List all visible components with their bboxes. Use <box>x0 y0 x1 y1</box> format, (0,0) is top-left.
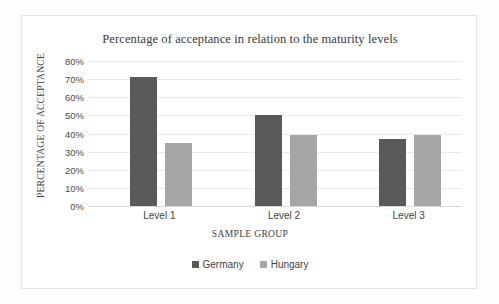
y-axis-tick-label: 10% <box>50 182 84 193</box>
y-axis-tick-label: 80% <box>50 56 84 67</box>
bar-group <box>337 61 462 206</box>
x-axis-title: SAMPLE GROUP <box>22 228 478 239</box>
y-axis-tick-label: 50% <box>50 110 84 121</box>
x-axis-tick-labels: Level 1Level 2Level 3 <box>88 210 462 226</box>
bar-germany-level-2 <box>255 115 282 206</box>
legend-item-hungary[interactable]: Hungary <box>260 259 309 270</box>
bar-group <box>213 61 338 206</box>
bar-group <box>88 61 213 206</box>
x-axis-tick-label: Level 1 <box>114 210 204 221</box>
chart-container: Percentage of acceptance in relation to … <box>21 15 477 289</box>
bar-series-group <box>88 61 462 206</box>
x-axis-tick-label: Level 2 <box>239 210 329 221</box>
plot-area <box>88 61 462 206</box>
y-axis-tick-label: 20% <box>50 164 84 175</box>
y-axis-tick-label: 70% <box>50 74 84 85</box>
legend-swatch-icon <box>192 261 199 268</box>
bar-germany-level-1 <box>130 77 157 206</box>
chart-title: Percentage of acceptance in relation to … <box>22 32 478 47</box>
y-axis-tick-labels: 80%70%60%50%40%30%20%10%0% <box>50 54 84 206</box>
y-axis-tick-label: 40% <box>50 128 84 139</box>
y-axis-tick-label: 30% <box>50 146 84 157</box>
y-axis-tick-label: 0% <box>50 201 84 212</box>
bar-hungary-level-2 <box>290 135 317 206</box>
bar-hungary-level-1 <box>165 143 192 206</box>
legend-item-germany[interactable]: Germany <box>192 259 244 270</box>
y-axis-title: PERCENTAGE OF ACCEPTANCE <box>35 51 46 201</box>
y-axis-tick-label: 60% <box>50 92 84 103</box>
x-axis-tick-label: Level 3 <box>364 210 454 221</box>
chart-legend: GermanyHungary <box>22 259 478 270</box>
axis-baseline <box>88 206 462 207</box>
legend-label: Hungary <box>271 259 309 270</box>
legend-swatch-icon <box>260 261 267 268</box>
bar-hungary-level-3 <box>414 135 441 206</box>
legend-label: Germany <box>203 259 244 270</box>
bar-germany-level-3 <box>379 139 406 206</box>
